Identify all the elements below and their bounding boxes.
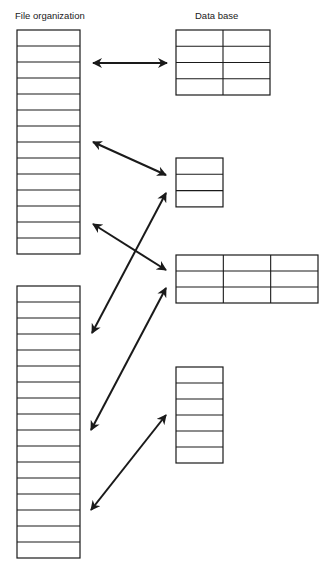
db-table-4 [176, 367, 223, 463]
arrow-table-3-to-file-block-2 [91, 288, 166, 430]
db-table-3-border [176, 255, 318, 303]
file-block-2 [17, 286, 80, 558]
db-table-3 [176, 255, 318, 303]
arrow-file-to-table-2 [93, 142, 166, 175]
file-block-1 [17, 30, 80, 254]
diagram-canvas [0, 0, 334, 571]
db-table-2 [176, 158, 223, 207]
db-table-1 [176, 30, 270, 95]
db-table-2-border [176, 158, 223, 207]
arrow-table-4-to-file-block-2 [91, 415, 166, 510]
file-block-2-border [17, 286, 80, 558]
